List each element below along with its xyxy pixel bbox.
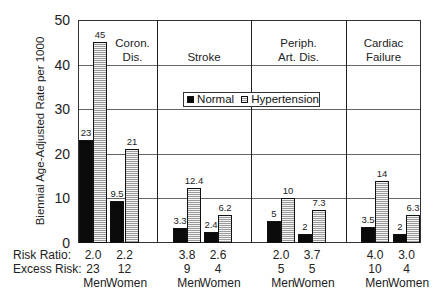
legend-label-hypertension: Hypertension <box>251 93 319 106</box>
excess-risk-label: Excess Risk: <box>13 263 82 276</box>
bar-value-label: 6.3 <box>401 203 425 213</box>
y-tick-label: 40 <box>40 58 70 72</box>
bar-normal <box>361 227 375 243</box>
excess-risk-value: 12 <box>105 263 145 276</box>
bar-hypertension <box>281 198 295 243</box>
excess-risk-value: 4 <box>387 263 427 276</box>
legend: Normal Hypertension <box>183 92 320 107</box>
bar-normal <box>204 232 218 243</box>
bar-value-label: 2 <box>293 222 317 232</box>
y-tick-label: 10 <box>40 191 70 205</box>
excess-risk-value: 5 <box>292 263 332 276</box>
y-tick-label: 30 <box>40 102 70 116</box>
bar-value-label: 23 <box>74 128 98 138</box>
panel-title: Dis. <box>108 51 157 64</box>
bar-value-label: 45 <box>88 30 112 40</box>
panel-title: Art. Dis. <box>251 51 346 64</box>
bar-normal <box>267 221 281 243</box>
y-tick-label: 50 <box>40 13 70 27</box>
bar-value-label: 3.5 <box>356 215 380 225</box>
sex-label: Women <box>105 277 149 290</box>
bar-hypertension <box>375 181 389 243</box>
bar-value-label: 3.3 <box>168 216 192 226</box>
risk-ratio-value: 2.2 <box>105 249 145 262</box>
bar-value-label: 7.3 <box>307 198 331 208</box>
panel-title: Cardiac <box>346 37 421 50</box>
risk-ratio-value: 3.0 <box>387 249 427 262</box>
legend-label-normal: Normal <box>197 93 234 106</box>
bar-value-label: 14 <box>370 169 394 179</box>
bar-value-label: 10 <box>276 186 300 196</box>
bar-normal <box>298 234 312 243</box>
y-tick-label: 20 <box>40 147 70 161</box>
bar-value-label: 21 <box>120 137 144 147</box>
bar-value-label: 6.2 <box>213 203 237 213</box>
panel-title: Coron. <box>108 37 157 50</box>
sex-label: Women <box>387 277 431 290</box>
sex-label: Women <box>198 277 242 290</box>
bar-normal <box>393 234 407 243</box>
excess-risk-value: 4 <box>198 263 238 276</box>
bar-normal <box>79 140 93 243</box>
risk-ratio-label: Risk Ratio: <box>13 249 71 262</box>
panel-title: Stroke <box>157 51 251 64</box>
risk-ratio-value: 2.6 <box>198 249 238 262</box>
sex-label: Women <box>292 277 336 290</box>
bar-value-label: 9.5 <box>105 189 129 199</box>
panel-title: Failure <box>346 51 421 64</box>
bar-value-label: 12.4 <box>182 176 206 186</box>
bar-value-label: 2 <box>388 222 412 232</box>
panel-title: Periph. <box>251 37 346 50</box>
bar-value-label: 2.4 <box>199 220 223 230</box>
bar-normal <box>110 201 124 243</box>
bar-normal <box>173 228 187 243</box>
bar-hypertension <box>93 42 107 243</box>
risk-ratio-value: 3.7 <box>292 249 332 262</box>
bar-value-label: 5 <box>262 209 286 219</box>
legend-swatch-hypertension <box>241 96 248 103</box>
legend-swatch-normal <box>187 96 194 103</box>
